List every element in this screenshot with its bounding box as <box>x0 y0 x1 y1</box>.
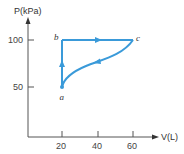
x-axis-arrow-icon <box>152 135 159 140</box>
y-axis-label: P(kPa) <box>14 6 42 16</box>
point-c-label: c <box>136 33 140 43</box>
y-tick-label-100: 100 <box>8 35 23 45</box>
point-a-label: a <box>60 92 65 102</box>
arrow-right-icon <box>95 37 102 43</box>
x-axis-label: V(L) <box>161 132 178 142</box>
x-tick-label-60: 60 <box>127 141 137 151</box>
x-tick-label-40: 40 <box>92 141 102 151</box>
point-b-label: b <box>54 32 59 42</box>
y-tick-label-50: 50 <box>13 82 23 92</box>
y-axis-arrow-icon <box>26 17 31 24</box>
x-tick-label-20: 20 <box>56 141 66 151</box>
arrow-up-icon <box>59 60 65 67</box>
point-a-marker <box>60 85 64 89</box>
pv-diagram: P(kPa) V(L) 100 50 20 40 60 a b c <box>0 0 184 154</box>
